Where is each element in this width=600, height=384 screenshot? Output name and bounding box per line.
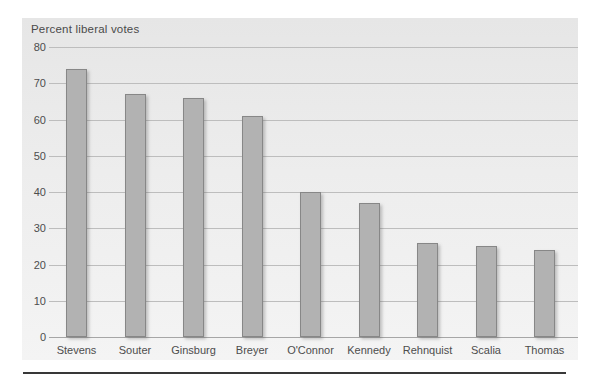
y-tick-label-10: 10: [22, 295, 46, 307]
y-tick-label-20: 20: [22, 259, 46, 271]
gridline-70: [49, 83, 578, 84]
gridline-0: [49, 337, 578, 338]
bar-scalia: [476, 246, 497, 337]
bar-rehnquist: [417, 243, 438, 337]
bar-chart-figure: Percent liberal votes 01020304050607080 …: [0, 0, 600, 384]
chart-panel: Percent liberal votes 01020304050607080 …: [22, 18, 578, 360]
gridline-80: [49, 47, 578, 48]
bar-ginsburg: [183, 98, 204, 337]
bar-souter: [125, 94, 146, 337]
bar-thomas: [534, 250, 555, 337]
y-tick-label-30: 30: [22, 222, 46, 234]
bar-breyer: [242, 116, 263, 337]
bar-kennedy: [359, 203, 380, 337]
chart-title: Percent liberal votes: [31, 23, 139, 35]
bar-oconnor: [300, 192, 321, 337]
y-tick-label-80: 80: [22, 41, 46, 53]
y-tick-label-70: 70: [22, 77, 46, 89]
y-tick-label-50: 50: [22, 150, 46, 162]
y-tick-label-40: 40: [22, 186, 46, 198]
x-tick-label-thomas: Thomas: [505, 344, 585, 356]
y-tick-label-0: 0: [22, 331, 46, 343]
y-tick-label-60: 60: [22, 114, 46, 126]
bar-stevens: [66, 69, 87, 337]
bottom-rule: [23, 372, 566, 374]
